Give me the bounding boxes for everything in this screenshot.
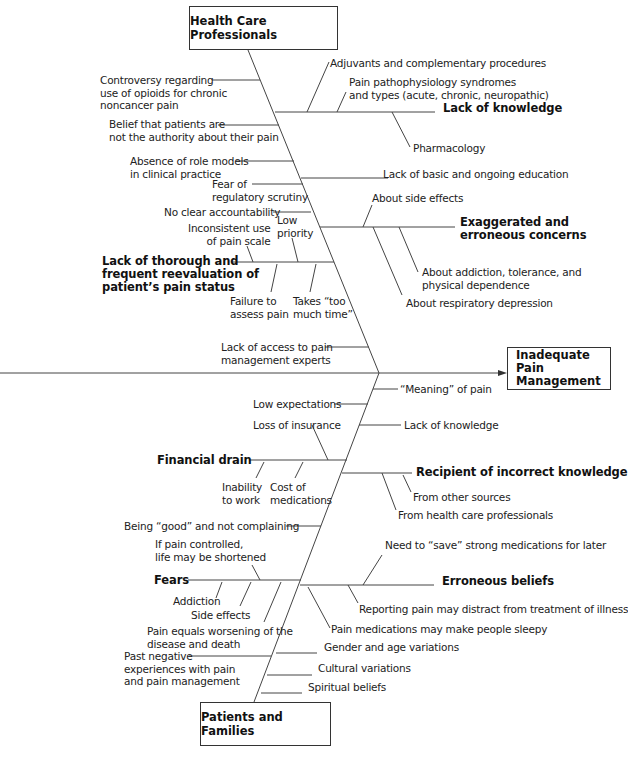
category-box-patients-and-families: Patients and Families <box>200 702 331 746</box>
cause-fear-side-effects: Side effects <box>191 609 250 622</box>
cause-role-models: Absence of role models in clinical pract… <box>130 155 248 180</box>
cause-regulatory: Fear of regulatory scrutiny <box>212 178 308 203</box>
cause-distract: Reporting pain may distract from treatme… <box>359 603 628 616</box>
cause-too-much-time: Takes “too much time” <box>293 295 353 320</box>
cause-worsening: Pain equals worsening of the disease and… <box>147 625 293 650</box>
cause-meaning: “Meaning” of pain <box>400 383 492 396</box>
cause-past-negative: Past negative experiences with pain and … <box>124 650 240 688</box>
cause-controversy: Controversy regarding use of opioids for… <box>100 74 227 112</box>
cause-lack-knowledge-patient: Lack of knowledge <box>404 419 498 432</box>
cause-loss-insurance: Loss of insurance <box>253 419 341 432</box>
cause-side-effects: About side effects <box>372 192 463 205</box>
subcategory-financial-drain: Financial drain <box>157 454 252 467</box>
cause-fear-addiction: Addiction <box>173 595 220 608</box>
cause-from-hcp: From health care professionals <box>398 509 553 522</box>
category-label: Health Care Professionals <box>190 14 337 42</box>
subcategory-exaggerated-concerns: Exaggerated and erroneous concerns <box>460 216 586 242</box>
effect-line: Management <box>516 375 601 388</box>
cause-sleepy: Pain medications may make people sleepy <box>331 623 547 636</box>
cause-other-sources: From other sources <box>413 491 510 504</box>
cause-education: Lack of basic and ongoing education <box>383 168 568 181</box>
arrowhead-icon <box>498 370 507 376</box>
cause-addiction: About addiction, tolerance, and physical… <box>422 266 581 291</box>
cause-cultural: Cultural variations <box>318 662 411 675</box>
category-label: Patients and Families <box>201 710 330 738</box>
subcategory-reevaluation: Lack of thorough and frequent reevaluati… <box>102 255 259 294</box>
cause-low-expectations: Low expectations <box>253 398 341 411</box>
cause-belief-authority: Belief that patients are not the authori… <box>109 118 279 143</box>
cause-inconsistent: Inconsistent use of pain scale <box>188 222 271 247</box>
cause-failure: Failure to assess pain <box>230 295 289 320</box>
category-box-health-care-professionals: Health Care Professionals <box>189 6 338 50</box>
cause-adjuvants: Adjuvants and complementary procedures <box>330 57 546 70</box>
cause-low-priority: Low priority <box>277 214 313 239</box>
cause-pathophysiology: Pain pathophysiology syndromes and types… <box>349 76 549 101</box>
cause-respiratory: About respiratory depression <box>406 297 553 310</box>
effect-box: Inadequate Pain Management <box>507 347 611 390</box>
cause-cost: Cost of medications <box>270 481 332 506</box>
subcategory-recipient: Recipient of incorrect knowledge <box>416 466 627 479</box>
cause-gender-age: Gender and age variations <box>324 641 459 654</box>
cause-accountability: No clear accountability <box>164 206 280 219</box>
cause-access-experts: Lack of access to pain management expert… <box>221 341 333 366</box>
cause-save-medications: Need to “save” strong medications for la… <box>385 539 606 552</box>
cause-life-shortened: If pain controlled, life may be shortene… <box>155 538 266 563</box>
cause-spiritual: Spiritual beliefs <box>308 681 386 694</box>
cause-being-good: Being “good” and not complaining <box>124 520 299 533</box>
subcategory-lack-of-knowledge: Lack of knowledge <box>443 102 562 115</box>
subcategory-erroneous-beliefs: Erroneous beliefs <box>442 575 554 588</box>
subcategory-fears: Fears <box>154 574 189 587</box>
cause-inability: Inability to work <box>222 481 262 506</box>
cause-pharmacology: Pharmacology <box>413 142 485 155</box>
